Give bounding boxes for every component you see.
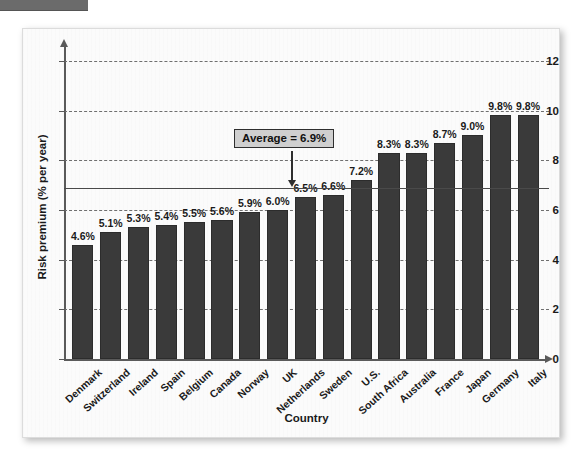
- bar: [434, 143, 455, 359]
- average-arrow-shaft: [291, 151, 293, 182]
- y-axis-line: [64, 46, 66, 361]
- y-tick-mark: [59, 111, 65, 112]
- gridline: [64, 61, 549, 62]
- bar-value-label: 8.3%: [377, 138, 401, 150]
- header-strip: [0, 0, 88, 11]
- y-tick-mark: [59, 61, 65, 62]
- bar: [239, 212, 260, 359]
- plot-area: 024681012 4.6%5.1%5.3%5.4%5.5%5.6%5.9%6.…: [23, 29, 559, 437]
- bar: [100, 232, 121, 359]
- bar-value-label: 8.7%: [433, 128, 457, 140]
- bar-value-label: 6.6%: [321, 180, 345, 192]
- bar: [378, 153, 399, 359]
- average-arrow-head-icon: [288, 180, 296, 187]
- bar-value-label: 7.2%: [349, 165, 373, 177]
- y-tick-label: 12: [529, 55, 559, 67]
- bar-value-label: 9.8%: [516, 100, 540, 112]
- bar: [295, 197, 316, 359]
- y-axis-title: Risk premium (% per year): [36, 82, 48, 332]
- bar: [156, 225, 177, 359]
- bar-value-label: 5.3%: [127, 212, 151, 224]
- bar: [184, 222, 205, 359]
- bar-value-label: 5.6%: [210, 205, 234, 217]
- x-tick-label: Ireland: [126, 366, 160, 398]
- bar: [128, 227, 149, 359]
- bar-value-label: 9.8%: [488, 100, 512, 112]
- bar: [462, 135, 483, 359]
- bar: [211, 220, 232, 359]
- y-tick-mark: [59, 309, 65, 310]
- x-tick-label: UK: [279, 366, 298, 385]
- gridline: [64, 111, 549, 112]
- bar: [406, 153, 427, 359]
- chart-panel: 024681012 4.6%5.1%5.3%5.4%5.5%5.6%5.9%6.…: [22, 28, 560, 438]
- x-tick-label: Italy: [525, 366, 549, 389]
- bar-value-label: 5.1%: [99, 217, 123, 229]
- bar-value-label: 8.3%: [405, 138, 429, 150]
- y-tick-mark: [59, 210, 65, 211]
- average-callout-label: Average = 6.9%: [234, 129, 334, 148]
- average-reference-line: [64, 188, 549, 189]
- y-tick-mark: [59, 260, 65, 261]
- y-tick-mark: [59, 160, 65, 161]
- bar: [490, 115, 511, 359]
- bar-value-label: 5.5%: [182, 207, 206, 219]
- bar: [351, 180, 372, 359]
- y-axis-arrow-icon: [60, 39, 68, 47]
- bar: [72, 245, 93, 359]
- bar-value-label: 5.4%: [154, 210, 178, 222]
- bar-value-label: 4.6%: [71, 230, 95, 242]
- bar-value-label: 6.0%: [266, 195, 290, 207]
- bar-value-label: 5.9%: [238, 197, 262, 209]
- bar: [518, 115, 539, 359]
- x-tick-label: France: [432, 366, 466, 398]
- bar: [267, 210, 288, 359]
- bar-value-label: 9.0%: [460, 120, 484, 132]
- x-axis-title: Country: [64, 412, 549, 424]
- x-axis-line: [64, 359, 549, 361]
- y-tick-mark: [59, 359, 65, 360]
- bar: [323, 195, 344, 359]
